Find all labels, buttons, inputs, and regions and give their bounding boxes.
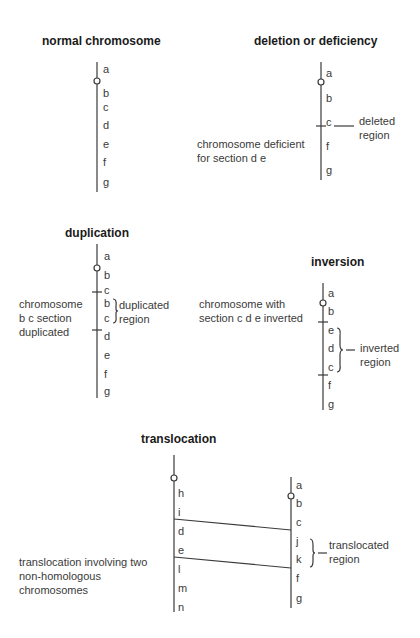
translocation-left-gene-n: n — [178, 601, 184, 613]
deletion-centromere — [318, 79, 324, 85]
duplication-gene-e: e — [104, 349, 110, 361]
translocation-right-gene-g: g — [296, 592, 302, 604]
translocation-left-gene-h: h — [178, 487, 184, 499]
translocation-right-gene-k: k — [296, 553, 302, 565]
inversion-description: chromosome with section c d e inverted — [199, 297, 303, 325]
translocation-right-gene-j: j — [296, 535, 298, 547]
translocation-right-centromere — [288, 493, 294, 499]
duplication-gene-b: b — [104, 269, 110, 281]
duplication-gene-f: f — [104, 368, 107, 380]
duplication-gene-c: c — [104, 284, 110, 296]
normal-chromosome-title: normal chromosome — [42, 34, 161, 48]
normal-centromere — [94, 78, 100, 84]
duplication-gene-g: g — [104, 385, 110, 397]
deletion-title: deletion or deficiency — [254, 34, 377, 48]
normal-gene-e: e — [103, 138, 109, 150]
deletion-description: chromosome deficient for section d e — [197, 137, 305, 165]
duplication-brace — [113, 299, 118, 323]
translocation-right-gene-c: c — [296, 516, 302, 528]
duplication-gene-a: a — [104, 250, 110, 262]
deletion-gene-c: c — [326, 116, 332, 128]
inversion-gene-e: e — [328, 324, 334, 336]
translocation-left-gene-m: m — [178, 582, 187, 594]
translocation-left-centromere — [171, 475, 177, 481]
translocation-right-gene-b: b — [296, 497, 302, 509]
duplication-title: duplication — [65, 226, 129, 240]
translocation-description: translocation involving two non-homologo… — [19, 555, 147, 597]
duplication-gene-c-dup: c — [104, 312, 110, 324]
translocation-connector-lower — [174, 557, 291, 568]
inversion-gene-d: d — [328, 342, 334, 354]
deletion-gene-b: b — [326, 92, 332, 104]
duplication-centromere — [94, 265, 100, 271]
inversion-gene-b: b — [328, 305, 334, 317]
translocation-right-gene-a: a — [296, 479, 302, 491]
inversion-centromere — [320, 300, 326, 306]
translocated-region-label: translocated region — [329, 538, 389, 566]
duplication-description: chromosome b c section duplicated — [19, 297, 83, 339]
inverted-region-label: inverted region — [360, 341, 399, 369]
inversion-gene-g: g — [328, 398, 334, 410]
translocation-title: translocation — [141, 432, 216, 446]
translocation-left-gene-d: d — [178, 525, 184, 537]
normal-gene-g: g — [103, 176, 109, 188]
translocation-connector-upper — [174, 519, 291, 530]
inversion-gene-a: a — [328, 287, 334, 299]
normal-gene-f: f — [103, 156, 106, 168]
duplication-gene-b-dup: b — [104, 297, 110, 309]
deleted-region-label: deleted region — [359, 114, 395, 142]
inversion-title: inversion — [311, 255, 364, 269]
inversion-gene-f: f — [328, 379, 331, 391]
normal-gene-c: c — [103, 101, 109, 113]
inversion-brace — [337, 328, 343, 372]
deletion-gene-a: a — [326, 67, 332, 79]
translocation-left-gene-i: i — [178, 506, 180, 518]
inversion-gene-c: c — [328, 361, 334, 373]
translocation-left-gene-l: l — [178, 563, 180, 575]
normal-gene-d: d — [103, 119, 109, 131]
translocation-right-gene-f: f — [296, 572, 299, 584]
normal-gene-b: b — [103, 87, 109, 99]
duplicated-region-label: duplicated region — [119, 298, 169, 326]
deletion-gene-f: f — [326, 140, 329, 152]
translocation-brace — [310, 539, 315, 567]
duplication-gene-d: d — [104, 330, 110, 342]
normal-gene-a: a — [103, 63, 109, 75]
translocation-left-gene-e: e — [178, 544, 184, 556]
deletion-gene-g: g — [326, 164, 332, 176]
